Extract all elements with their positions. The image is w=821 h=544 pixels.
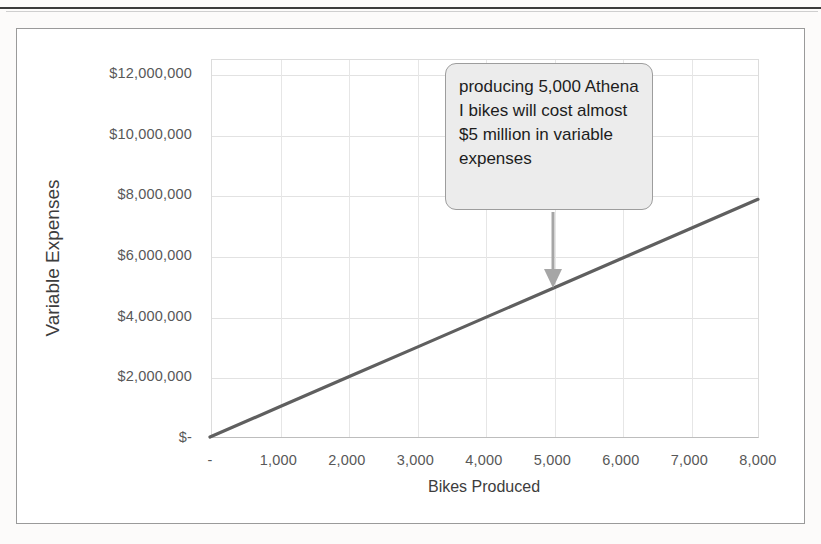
x-axis-tick-label: 8,000 [739,452,776,468]
y-axis-tick-label: $8,000,000 [117,186,192,202]
scanned-page: $-$2,000,000$4,000,000$6,000,000$8,000,0… [0,0,821,544]
gridline-vertical [692,60,693,437]
y-axis-tick-label: $10,000,000 [109,126,192,142]
gridline-horizontal [212,257,758,258]
x-axis-tick-label: 3,000 [397,452,434,468]
y-axis-tick-label: $6,000,000 [117,247,192,263]
x-axis-tick-labels: -1,0002,0003,0004,0005,0006,0007,0008,00… [16,452,805,476]
x-axis-title: Bikes Produced [210,478,758,496]
page-top-rule-secondary [6,11,818,12]
x-axis-tick-label: 7,000 [671,452,708,468]
y-axis-title: Variable Expenses [42,108,64,408]
callout-annotation: producing 5,000 Athena I bikes will cost… [445,63,653,210]
x-axis-tick-label: 4,000 [465,452,502,468]
gridline-horizontal [212,318,758,319]
callout-arrow-icon [521,212,585,292]
gridline-horizontal [212,378,758,379]
x-axis-tick-label: - [207,452,212,468]
gridline-vertical [418,60,419,437]
gridline-vertical [349,60,350,437]
x-axis-tick-label: 5,000 [534,452,571,468]
x-axis-tick-label: 2,000 [328,452,365,468]
y-axis-tick-label: $4,000,000 [117,308,192,324]
y-axis-tick-label: $12,000,000 [109,65,192,81]
page-top-rule [0,7,821,9]
y-axis-tick-label: $- [179,429,192,445]
y-axis-tick-label: $2,000,000 [117,368,192,384]
gridline-vertical [281,60,282,437]
x-axis-tick-label: 1,000 [260,452,297,468]
x-axis-tick-label: 6,000 [602,452,639,468]
